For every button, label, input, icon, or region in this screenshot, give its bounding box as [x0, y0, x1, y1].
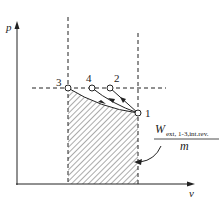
state-label-4: 4	[86, 72, 92, 84]
work-label-subscript: ext, 1-3,int.rev.	[166, 130, 209, 138]
work-label-numerator: W	[155, 122, 166, 136]
state-label-3: 3	[56, 76, 62, 88]
state-point-1	[135, 110, 141, 116]
pv-diagram: p v 3 4 2 1 W ext, 1-3,int.rev. m	[0, 0, 223, 203]
annotation-leader-line	[140, 146, 161, 162]
state-point-2	[107, 85, 113, 91]
work-label-denominator: m	[180, 139, 189, 153]
state-point-4	[89, 85, 95, 91]
state-point-3	[65, 85, 71, 91]
y-axis-label: p	[5, 21, 12, 33]
state-label-2: 2	[114, 72, 120, 84]
x-axis-label: v	[189, 187, 194, 199]
y-axis-arrow-icon	[15, 21, 20, 29]
x-axis-arrow-icon	[187, 182, 195, 187]
state-label-1: 1	[145, 107, 151, 119]
